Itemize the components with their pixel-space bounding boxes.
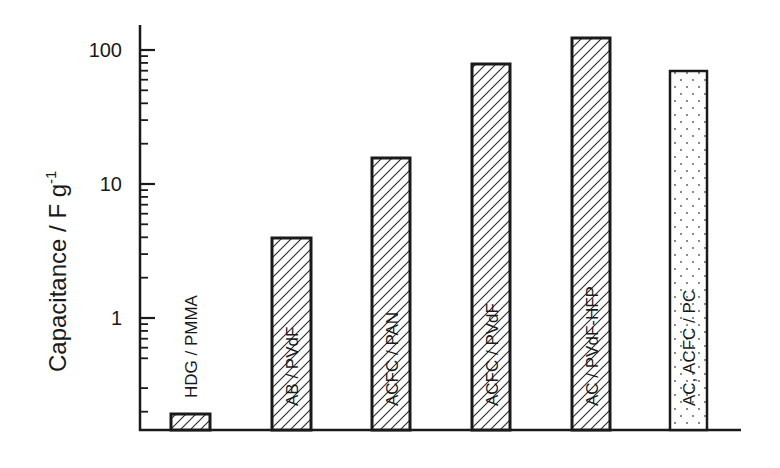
y-tick-label-1: 1 xyxy=(111,307,122,329)
bar-label: AB / PVdF xyxy=(283,327,302,406)
bar-label: AC, ACFC / PC xyxy=(680,290,699,406)
bar-chart: Capacitance / F g-1 xyxy=(0,0,780,468)
bar-label: HDG / PMMA xyxy=(182,294,201,398)
y-tick-label-100: 100 xyxy=(89,39,122,61)
bar-label: AC / PVdF-HFP xyxy=(583,286,602,406)
bar-acfc-pvdf: ACFC / PVdF xyxy=(472,64,510,430)
svg-text:Capacitance / F g-1: Capacitance / F g-1 xyxy=(42,171,71,372)
bar-ac-acfc-pc: AC, ACFC / PC xyxy=(670,71,707,430)
y-axis-title: Capacitance / F g-1 xyxy=(42,171,71,372)
bar-hdg-pmma: HDG / PMMA xyxy=(171,294,210,430)
bar-label: ACFC / PAN xyxy=(383,312,402,406)
bar-ab-pvdf: AB / PVdF xyxy=(272,238,311,430)
y-tick-label-10: 10 xyxy=(100,173,122,195)
bar-acfc-pan: ACFC / PAN xyxy=(372,158,410,430)
bar-ac-pvdf-hfp: AC / PVdF-HFP xyxy=(572,38,610,430)
bar-label: ACFC / PVdF xyxy=(483,303,502,406)
